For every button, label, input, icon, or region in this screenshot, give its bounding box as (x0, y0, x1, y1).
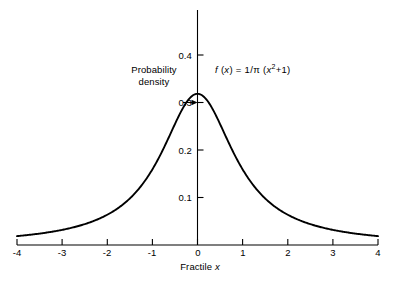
x-tick-label-n3: -3 (52, 247, 72, 258)
x-tick-label-n4: -4 (7, 247, 27, 258)
x-tick-label-n1: -1 (142, 247, 162, 258)
x-tick-label-3: 3 (323, 247, 343, 258)
y-tick-label-0-4: 0.4 (166, 50, 192, 61)
x-tick-label-n2: -2 (97, 247, 117, 258)
x-tick-marks (17, 239, 378, 245)
formula-equals: = 1/ (233, 64, 253, 75)
formula-annotation: f (x) = 1/π (x2+1) (215, 64, 291, 75)
x-tick-label-1: 1 (233, 247, 253, 258)
x-axis-title-var: x (215, 261, 220, 272)
plot-canvas (0, 0, 395, 286)
x-axis-title: Fractile x (155, 261, 245, 272)
cauchy-density-figure: Probability density f (x) = 1/π (x2+1) F… (0, 0, 395, 286)
x-tick-label-2: 2 (278, 247, 298, 258)
x-tick-label-4: 4 (368, 247, 388, 258)
formula-pi: π (253, 64, 260, 75)
x-tick-label-0: 0 (188, 247, 208, 258)
y-tick-label-0-2: 0.2 (166, 145, 192, 156)
x-axis-title-prefix: Fractile (180, 261, 215, 272)
y-axis-title-line2: density (115, 76, 193, 88)
y-tick-marks (198, 55, 204, 198)
y-axis-title: Probability density (115, 64, 193, 87)
y-tick-label-0-3: 0.3 (166, 97, 192, 108)
y-tick-label-0-1: 0.1 (166, 192, 192, 203)
formula-plus-one: +1) (276, 64, 291, 75)
y-axis-title-line1: Probability (115, 64, 193, 76)
